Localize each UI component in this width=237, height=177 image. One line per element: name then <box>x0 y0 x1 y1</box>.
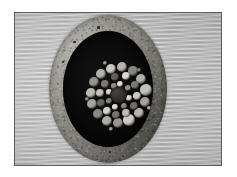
figure-root <box>0 0 237 177</box>
plate-vignette <box>15 13 221 165</box>
photo-plate-frame <box>14 12 222 166</box>
